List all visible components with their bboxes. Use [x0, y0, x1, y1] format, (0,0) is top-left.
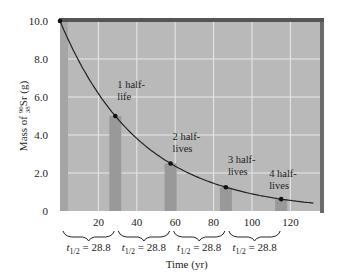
- half-life-chart: 02.04.06.08.010.0 20406080100120 1 half-…: [0, 0, 341, 278]
- annotation-line2: lives: [269, 180, 289, 191]
- y-tick-label: 8.0: [34, 53, 48, 65]
- y-axis-label: Mass of 9038Sr (g): [17, 81, 32, 152]
- half-life-bar: [165, 164, 177, 212]
- x-axis-ticks: 20406080100120: [93, 216, 299, 228]
- plot-top-frame: [59, 18, 324, 22]
- annotation-line2: lives: [173, 143, 193, 154]
- x-tick-label: 100: [244, 216, 261, 228]
- half-life-bar: [220, 187, 232, 211]
- half-life-brace: [174, 231, 225, 241]
- annotation-line1: 3 half-: [228, 154, 256, 165]
- annotation-line2: life: [117, 91, 131, 102]
- half-life-label: t1/2 = 28.8: [67, 241, 112, 256]
- annotation-line1: 2 half-: [173, 131, 201, 142]
- x-tick-label: 60: [170, 216, 182, 228]
- x-tick-label: 20: [93, 216, 105, 228]
- y-tick-label: 6.0: [34, 91, 48, 103]
- data-point: [113, 114, 118, 119]
- half-life-brace: [118, 231, 169, 241]
- data-point: [279, 197, 284, 202]
- data-point: [58, 19, 63, 24]
- y-tick-label: 2.0: [34, 167, 48, 179]
- y-tick-label: 10.0: [29, 15, 49, 27]
- half-life-brace: [63, 231, 114, 241]
- x-axis-label: Time (yr): [166, 258, 208, 271]
- x-tick-label: 80: [208, 216, 220, 228]
- plot-left-wall: [60, 21, 68, 211]
- half-life-brace: [229, 231, 280, 241]
- data-point: [224, 185, 229, 190]
- plot-shadow: [320, 19, 324, 213]
- half-life-label: t1/2 = 28.8: [177, 241, 222, 256]
- annotation-line2: lives: [228, 166, 248, 177]
- half-life-braces: t1/2 = 28.8t1/2 = 28.8t1/2 = 28.8t1/2 = …: [63, 231, 280, 256]
- y-tick-label: 0: [43, 205, 49, 217]
- annotation-line1: 4 half-: [269, 168, 297, 179]
- half-life-bar: [109, 116, 121, 211]
- y-axis-ticks: 02.04.06.08.010.0: [29, 15, 49, 217]
- x-tick-label: 120: [282, 216, 299, 228]
- annotation-line1: 1 half-: [117, 79, 145, 90]
- half-life-label: t1/2 = 28.8: [232, 241, 277, 256]
- half-life-label: t1/2 = 28.8: [122, 241, 167, 256]
- data-point: [168, 161, 173, 166]
- x-tick-label: 40: [131, 216, 143, 228]
- y-tick-label: 4.0: [34, 129, 48, 141]
